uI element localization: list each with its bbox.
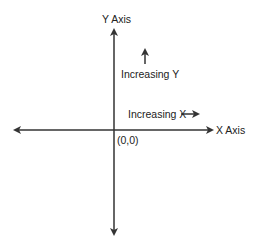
axes-canvas <box>0 0 256 245</box>
increasing-x-label: Increasing X <box>128 109 186 120</box>
y-axis-label: Y Axis <box>102 14 131 25</box>
increasing-y-label: Increasing Y <box>121 69 179 80</box>
origin-label: (0,0) <box>117 135 139 146</box>
x-axis-label: X Axis <box>216 125 245 136</box>
